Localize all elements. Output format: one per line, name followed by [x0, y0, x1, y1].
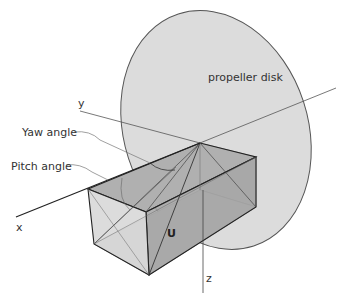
pitch-leader-line — [66, 165, 108, 180]
z-axis-label: z — [206, 272, 212, 285]
x-axis-label: x — [16, 221, 23, 234]
propeller-diagram: propeller disk y Yaw angle Pitch angle x… — [0, 0, 343, 301]
yaw-angle-label: Yaw angle — [21, 126, 77, 139]
y-axis-label: y — [78, 97, 85, 110]
propeller-disk-label: propeller disk — [208, 71, 283, 84]
pitch-angle-label: Pitch angle — [11, 160, 72, 173]
velocity-vector-label: U — [167, 227, 176, 240]
